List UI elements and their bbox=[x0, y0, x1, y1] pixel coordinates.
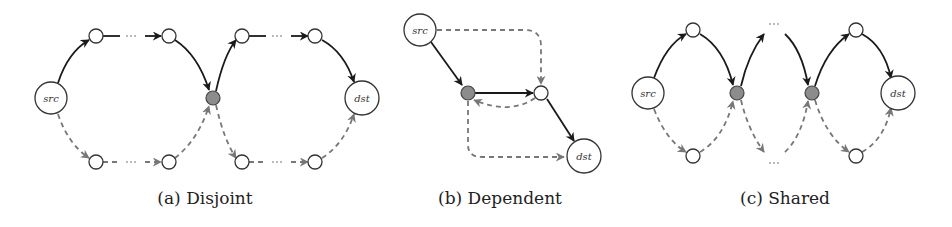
node-src-label: src bbox=[640, 88, 656, 99]
edge-src-to-bot1 bbox=[654, 109, 686, 152]
node-src-label: src bbox=[412, 25, 428, 36]
edge-top2-to-dst bbox=[862, 34, 891, 78]
caption-shared: (c) Shared bbox=[740, 188, 830, 208]
edge-mid-to-top3 bbox=[216, 40, 236, 91]
panel-dependent: src dst bbox=[404, 14, 601, 173]
node-relay bbox=[849, 23, 863, 37]
node-shared bbox=[461, 86, 475, 100]
edge-g2-to-top2 bbox=[815, 34, 849, 86]
node-relay bbox=[162, 29, 176, 43]
ellipsis-top bbox=[769, 23, 779, 25]
edge-bot1-to-g1 bbox=[700, 101, 733, 152]
edge-top1-to-g1 bbox=[700, 34, 733, 85]
node-dst-label: dst bbox=[576, 151, 593, 162]
edge-bot4-to-dst bbox=[322, 114, 354, 158]
edge-top2-to-mid bbox=[175, 40, 209, 90]
caption-disjoint: (a) Disjoint bbox=[157, 188, 252, 208]
ellipsis-top-right bbox=[272, 35, 282, 37]
node-shared bbox=[730, 86, 744, 100]
caption-dependent: (b) Dependent bbox=[438, 188, 562, 208]
edge-g1-to-ellipsis bbox=[741, 34, 764, 86]
node-relay bbox=[534, 86, 548, 100]
ellipsis-bottom-right bbox=[272, 161, 282, 163]
node-relay bbox=[308, 29, 322, 43]
node-relay bbox=[162, 155, 176, 169]
edge-relay-to-dst bbox=[547, 99, 574, 141]
node-shared bbox=[206, 91, 220, 105]
panel-shared: src dst bbox=[632, 23, 915, 164]
edge-src-to-shared bbox=[431, 42, 462, 85]
edge-bot2-to-mid bbox=[175, 106, 209, 158]
ellipsis-top-left bbox=[126, 35, 136, 37]
edge-ellipsis-to-g2 bbox=[785, 34, 808, 85]
edge-src-to-bot1 bbox=[58, 114, 89, 158]
node-src-label: src bbox=[43, 93, 59, 104]
node-relay bbox=[89, 155, 103, 169]
node-relay bbox=[686, 149, 700, 163]
panel-disjoint: src dst bbox=[35, 29, 379, 169]
edge-src-to-relay-dashed bbox=[437, 30, 541, 84]
ellipsis-bottom bbox=[769, 162, 779, 164]
node-dst-label: dst bbox=[890, 88, 907, 99]
ellipsis-bottom-left bbox=[126, 161, 136, 163]
node-relay bbox=[89, 29, 103, 43]
edge-g2-to-bot2 bbox=[815, 100, 849, 152]
node-relay bbox=[235, 29, 249, 43]
edge-relay-to-shared-dashed bbox=[474, 98, 535, 107]
node-dst-label: dst bbox=[354, 93, 371, 104]
edge-shared-to-dst-dashed bbox=[468, 101, 564, 157]
edge-top4-to-dst bbox=[322, 40, 354, 82]
edge-g1-to-ellipsis bbox=[741, 100, 764, 152]
edge-src-to-top1 bbox=[58, 40, 89, 83]
edge-ellipsis-to-g2 bbox=[785, 101, 808, 152]
node-relay bbox=[849, 149, 863, 163]
node-relay bbox=[235, 155, 249, 169]
edge-src-to-top1 bbox=[654, 34, 686, 78]
node-relay bbox=[308, 155, 322, 169]
edge-mid-to-bot3 bbox=[216, 105, 236, 158]
node-shared bbox=[805, 86, 819, 100]
edge-bot2-to-dst bbox=[862, 108, 891, 152]
node-relay bbox=[686, 23, 700, 37]
